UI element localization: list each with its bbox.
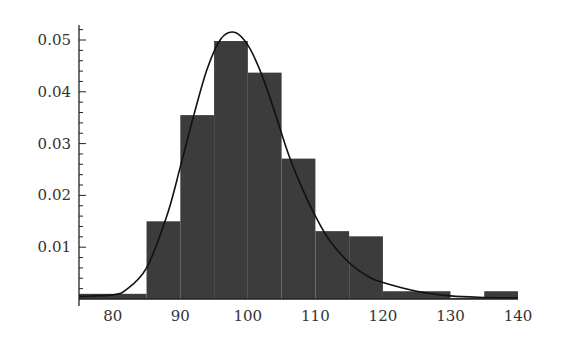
x-tick-label: 100 bbox=[234, 307, 263, 325]
x-tick-label: 140 bbox=[504, 307, 533, 325]
y-tick-label: 0.04 bbox=[38, 83, 71, 101]
x-tick-label: 80 bbox=[103, 307, 122, 325]
histogram-bar bbox=[315, 231, 349, 299]
histogram-bar bbox=[214, 41, 248, 299]
x-tick-label: 120 bbox=[369, 307, 398, 325]
y-tick-label: 0.02 bbox=[38, 186, 71, 204]
x-tick-label: 110 bbox=[301, 307, 330, 325]
y-tick-label: 0.05 bbox=[38, 31, 71, 49]
y-tick-label: 0.03 bbox=[38, 135, 71, 153]
histogram-chart: 0.010.020.030.040.058090100110120130140 bbox=[0, 0, 565, 346]
y-tick-label: 0.01 bbox=[38, 238, 71, 256]
histogram-bar bbox=[180, 115, 214, 299]
histogram-bar bbox=[248, 73, 282, 299]
histogram-bar bbox=[147, 221, 181, 299]
x-tick-label: 90 bbox=[171, 307, 190, 325]
x-tick-label: 130 bbox=[436, 307, 465, 325]
histogram-bars bbox=[79, 41, 518, 299]
